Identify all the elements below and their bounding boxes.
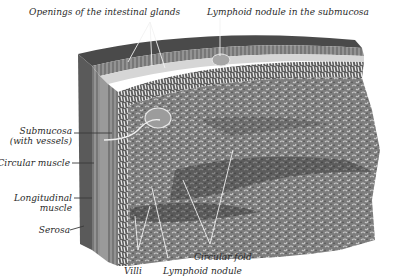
label-villi: Villi [124, 266, 142, 276]
label-longitudinal-muscle: Longitudinal [14, 193, 72, 203]
intestine-section-figure: Openings of the intestinal glands Lympho… [0, 0, 397, 280]
label-openings-intestinal-glands: Openings of the intestinal glands [29, 7, 180, 17]
submucosa-nodule-shape [212, 54, 230, 66]
label-lymphoid-nodule-submucosa: Lymphoid nodule in the submucosa [207, 7, 369, 17]
label-submucosa: Submucosa [20, 126, 73, 136]
left-wall-layers [78, 54, 118, 266]
label-circular-muscle: Circular muscle [0, 158, 70, 168]
label-longitudinal-muscle-line2: muscle [40, 203, 72, 213]
lymphoid-nodule-shape [145, 108, 171, 128]
label-submucosa-vessels: (with vessels) [10, 136, 72, 146]
label-serosa: Serosa [39, 225, 70, 235]
label-lymphoid-nodule: Lymphoid nodule [163, 266, 242, 276]
label-circular-fold: Circular fold [194, 252, 252, 262]
